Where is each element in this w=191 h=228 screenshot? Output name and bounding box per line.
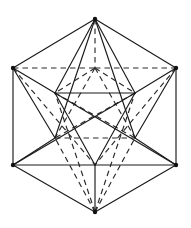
polyhedron-hidden-edge: [13, 68, 95, 165]
polyhedron-hidden-edge: [55, 93, 95, 212]
polyhedron-visible-edge: [13, 68, 55, 93]
polyhedron-vertex-lower-right: [174, 163, 178, 167]
polyhedron-vertex-top: [93, 17, 97, 21]
polyhedron-visible-edge: [95, 19, 176, 68]
polyhedron-hidden-edge: [55, 68, 95, 93]
polyhedron-visible-edge: [55, 19, 95, 93]
polyhedron-hidden-edge: [95, 93, 135, 212]
polyhedron-visible-edge: [13, 165, 95, 212]
polyhedron-visible-edge: [95, 19, 135, 93]
polyhedron-vertex-upper-left: [11, 66, 15, 70]
polyhedron-diagram: [0, 0, 191, 228]
polyhedron-hidden-edge: [95, 68, 135, 93]
polyhedron-vertex-upper-right: [174, 66, 178, 70]
polyhedron-vertex-lower-left: [11, 163, 15, 167]
polyhedron-vertex-bottom: [93, 210, 97, 214]
polyhedron-visible-edge: [13, 68, 55, 138]
polyhedron-visible-edge: [95, 165, 176, 212]
polyhedron-visible-edge: [13, 19, 95, 68]
polyhedron-figure: [0, 0, 191, 228]
polyhedron-visible-edge: [135, 68, 176, 138]
polyhedron-visible-edge: [135, 68, 176, 93]
polyhedron-hidden-edge: [95, 68, 176, 165]
